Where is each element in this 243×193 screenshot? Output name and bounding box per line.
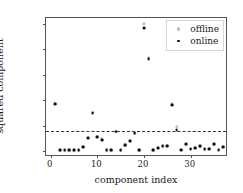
data-point-online (185, 143, 188, 146)
legend-item-online: online (171, 35, 219, 47)
legend-item-offline: offline (171, 23, 219, 35)
data-point-online (166, 144, 169, 147)
legend: offline online (166, 20, 224, 51)
data-point-online (129, 139, 132, 142)
x-tick-mark (144, 155, 145, 158)
data-point-online (147, 58, 150, 61)
x-tick-mark (97, 155, 98, 158)
data-point-online (63, 149, 66, 152)
offline-marker-icon (171, 27, 185, 30)
y-tick-mark (43, 24, 46, 25)
x-tick-label: 30 (184, 159, 195, 169)
data-point-online (87, 136, 90, 139)
y-tick-mark (43, 49, 46, 50)
legend-label-offline: offline (190, 24, 219, 34)
data-point-online (110, 149, 113, 152)
x-tick-label: 0 (47, 159, 52, 169)
data-point-online (119, 149, 122, 152)
data-point-online (133, 132, 136, 135)
data-point-online (171, 104, 174, 107)
data-point-online (161, 145, 164, 148)
data-point-online (203, 148, 206, 151)
y-axis-label: squared component (0, 38, 5, 134)
figure: squared component component index 0.000.… (0, 0, 243, 193)
data-point-online (222, 145, 225, 148)
data-point-online (68, 149, 71, 152)
data-point-online (54, 102, 57, 105)
data-point-online (213, 143, 216, 146)
data-point-online (115, 130, 118, 133)
data-point-online (157, 146, 160, 149)
y-tick-mark (43, 75, 46, 76)
data-point-online (152, 149, 155, 152)
plot-area: offline online (45, 17, 227, 156)
data-point-online (96, 135, 99, 138)
x-axis-label: component index (95, 174, 178, 185)
data-point-online (189, 147, 192, 150)
data-point-online (77, 149, 80, 152)
x-tick-label: 20 (138, 159, 149, 169)
data-point-offline (142, 22, 145, 25)
data-point-online (143, 27, 146, 30)
x-tick-label: 10 (91, 159, 102, 169)
data-point-online (59, 149, 62, 152)
data-point-online (82, 145, 85, 148)
y-tick-mark (43, 126, 46, 127)
x-tick-mark (191, 155, 192, 158)
x-tick-mark (51, 155, 52, 158)
data-point-online (199, 145, 202, 148)
data-point-online (180, 148, 183, 151)
data-point-online (105, 149, 108, 152)
data-point-online (73, 149, 76, 152)
data-point-online (217, 148, 220, 151)
data-point-online (175, 129, 178, 132)
data-point-online (194, 146, 197, 149)
y-tick-mark (43, 100, 46, 101)
data-point-online (138, 149, 141, 152)
online-marker-icon (171, 40, 185, 43)
data-point-online (101, 138, 104, 141)
data-point-online (91, 111, 94, 114)
y-tick-mark (43, 151, 46, 152)
data-point-online (208, 147, 211, 150)
legend-label-online: online (190, 36, 218, 46)
data-point-online (124, 144, 127, 147)
